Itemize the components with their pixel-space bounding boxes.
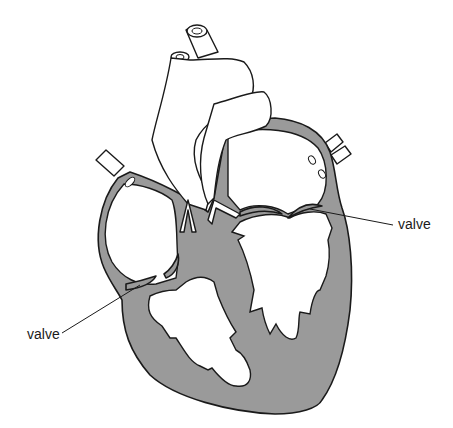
valve-label-right: valve: [398, 216, 431, 232]
left-atrium-chamber: [228, 130, 326, 214]
vena-cava-stub: [96, 150, 124, 176]
heart-diagram: valve valve: [0, 0, 453, 428]
valve-label-left: valve: [27, 326, 60, 342]
